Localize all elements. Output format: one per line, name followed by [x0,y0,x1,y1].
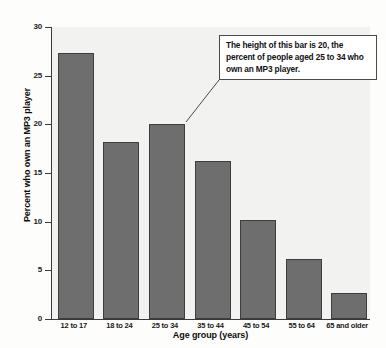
y-axis-title: Percent who own an MP3 player [22,45,32,265]
bar [58,53,94,319]
bar [331,293,367,319]
x-axis-category-label: 25 to 34 [142,321,188,330]
bar [240,220,276,319]
y-axis-tick-label: 0 [24,314,42,323]
x-axis-line [51,319,370,320]
x-axis-category-label: 45 to 54 [233,321,279,330]
x-axis-category-label: 55 to 64 [279,321,325,330]
x-axis-title: Age group (years) [51,330,370,340]
bar [149,124,185,319]
x-axis-category-label: 18 to 24 [97,321,143,330]
x-axis-category-label: 35 to 44 [188,321,234,330]
bar [195,161,231,319]
annotation-callout: The height of this bar is 20, the percen… [219,35,377,80]
x-axis-category-label: 65 and older [324,321,370,330]
y-axis-tick-label: 30 [24,22,42,31]
bar-chart-figure: 051015202530 Percent who own an MP3 play… [0,0,386,348]
x-axis-category-label: 12 to 17 [51,321,97,330]
bar [103,142,139,319]
y-axis-tick [45,319,51,320]
bar [286,259,322,319]
y-axis-tick-label: 5 [24,265,42,274]
